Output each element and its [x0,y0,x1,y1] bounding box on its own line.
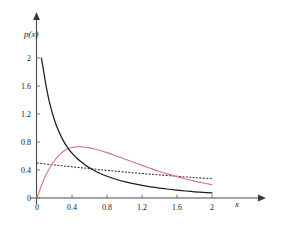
y-axis-title: p(x) [23,29,39,39]
x-tick-label: 1.2 [137,203,147,212]
x-axis-arrow-icon [258,195,266,202]
y-axis-arrow-icon [33,12,40,20]
series-line-black-dashed-slow-decay [37,163,212,179]
y-tick-labels: 0 0.4 0.8 1.2 1.6 2 [21,54,31,203]
data-curves [37,58,212,198]
series-line-red-unimodal [37,147,212,198]
x-tick-label: 0.8 [102,203,112,212]
y-tick-label: 1.2 [21,110,31,119]
plot-canvas: 0 0.4 0.8 1.2 1.6 2 0 0.4 0.8 1.2 1.6 2 … [0,0,282,229]
chart-figure: 0 0.4 0.8 1.2 1.6 2 0 0.4 0.8 1.2 1.6 2 … [0,0,282,229]
x-tick-label: 0 [35,203,39,212]
x-axis-title: x [234,199,239,209]
y-tick-label: 0.8 [21,138,31,147]
x-tick-label: 0.4 [67,203,77,212]
y-tick-label: 2 [27,54,31,63]
y-tick-label: 0 [27,194,31,203]
y-tick-label: 0.4 [21,166,31,175]
y-tick-label: 1.6 [21,82,31,91]
x-tick-labels: 0 0.4 0.8 1.2 1.6 2 [35,203,214,212]
series-line-solid-black-decaying [41,58,212,193]
axes-group [30,12,266,204]
x-tick-label: 1.6 [172,203,182,212]
x-tick-label: 2 [210,203,214,212]
